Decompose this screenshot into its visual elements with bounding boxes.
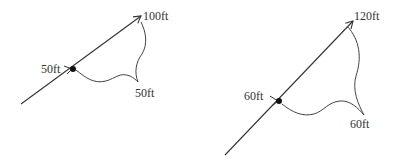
left-point-dot <box>70 66 76 72</box>
right-diagram: 60ft 120ft 60ft <box>225 9 380 155</box>
right-point-dot <box>276 98 282 104</box>
left-start-label: 50ft <box>41 62 61 76</box>
diagram-canvas: 50ft 100ft 50ft 60ft 120ft 60ft <box>0 0 396 161</box>
right-curve <box>282 26 364 115</box>
left-diagram: 50ft 100ft 50ft <box>21 9 169 104</box>
left-curve-label: 50ft <box>135 86 155 100</box>
right-curve-label: 60ft <box>350 117 370 131</box>
right-vector-line <box>225 21 353 155</box>
left-end-label: 100ft <box>143 9 169 23</box>
right-end-label: 120ft <box>354 9 380 23</box>
left-vector-line <box>21 16 141 104</box>
left-curve <box>76 22 146 82</box>
right-start-label: 60ft <box>244 89 264 103</box>
